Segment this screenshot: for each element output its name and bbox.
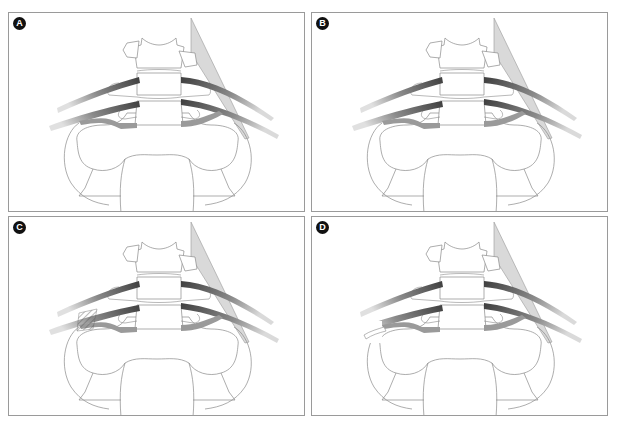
panel-a: A xyxy=(8,12,305,212)
hatched-compression-region xyxy=(77,309,97,331)
anatomy-illustration-d xyxy=(312,217,608,416)
anatomy-illustration-c xyxy=(9,217,305,416)
panel-c: C xyxy=(8,216,305,416)
anatomy-illustration-b xyxy=(312,13,608,212)
panel-label-badge-d: D xyxy=(316,221,329,234)
anatomy-illustration-a xyxy=(9,13,305,212)
panel-label-badge-c: C xyxy=(13,221,26,234)
panel-label-badge-a: A xyxy=(13,17,26,30)
panel-b: B xyxy=(311,12,608,212)
panel-label-badge-b: B xyxy=(316,17,329,30)
panel-d: D xyxy=(311,216,608,416)
